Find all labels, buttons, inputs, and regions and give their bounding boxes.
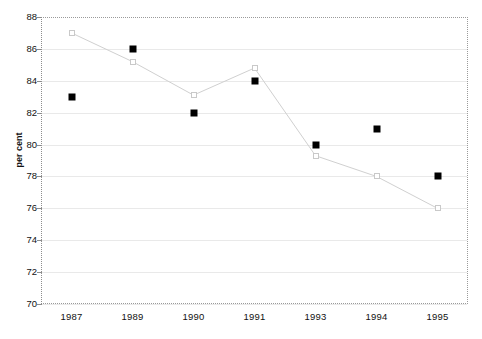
y-tick-mark	[37, 113, 42, 114]
y-tick-mark	[37, 81, 42, 82]
data-point-marker	[129, 45, 136, 52]
gridline	[42, 113, 467, 114]
gridline	[42, 145, 467, 146]
x-tick-label: 1989	[122, 311, 144, 322]
y-tick-label: 84	[4, 75, 37, 86]
x-tick-label: 1993	[305, 311, 327, 322]
plot-area-frame	[41, 17, 468, 304]
data-point-marker	[69, 30, 75, 36]
gridline	[42, 49, 467, 50]
gridline	[42, 240, 467, 241]
y-tick-label: 78	[4, 170, 37, 181]
y-tick-mark	[37, 240, 42, 241]
data-point-marker	[252, 65, 258, 71]
y-tick-label: 74	[4, 234, 37, 245]
gridline	[42, 176, 467, 177]
chart-container: 70727476788082848688 1987198919901991199…	[0, 0, 482, 339]
y-axis-spine	[41, 17, 42, 304]
x-tick-label: 1995	[427, 311, 449, 322]
y-tick-label: 72	[4, 266, 37, 277]
x-tick-label: 1994	[366, 311, 388, 322]
data-point-marker	[130, 59, 136, 65]
data-point-marker	[313, 153, 319, 159]
data-point-marker	[312, 141, 319, 148]
data-point-marker	[374, 173, 380, 179]
y-tick-label: 76	[4, 202, 37, 213]
y-axis-title: per cent	[14, 132, 24, 167]
x-tick-label: 1991	[244, 311, 266, 322]
data-point-marker	[68, 93, 75, 100]
gridline	[42, 208, 467, 209]
data-point-marker	[434, 173, 441, 180]
y-tick-mark	[37, 145, 42, 146]
x-tick-label: 1987	[61, 311, 83, 322]
y-tick-mark	[37, 49, 42, 50]
y-tick-label: 86	[4, 43, 37, 54]
data-point-marker	[373, 125, 380, 132]
y-tick-mark	[37, 176, 42, 177]
y-tick-label: 82	[4, 107, 37, 118]
y-tick-label: 70	[4, 298, 37, 309]
x-tick-label: 1990	[183, 311, 205, 322]
data-point-marker	[251, 77, 258, 84]
y-tick-mark	[37, 272, 42, 273]
y-tick-mark	[37, 304, 42, 305]
data-point-marker	[191, 92, 197, 98]
y-tick-label: 88	[4, 11, 37, 22]
y-tick-mark	[37, 17, 42, 18]
gridline	[42, 304, 467, 305]
y-tick-mark	[37, 208, 42, 209]
gridline	[42, 272, 467, 273]
data-point-marker	[435, 205, 441, 211]
data-point-marker	[190, 109, 197, 116]
